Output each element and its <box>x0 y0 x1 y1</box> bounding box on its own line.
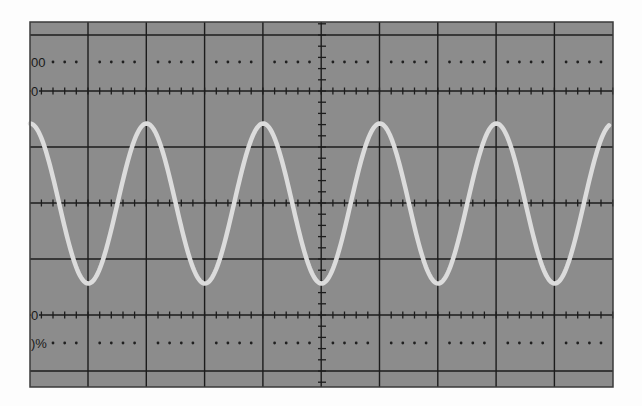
graticule-dot <box>285 342 288 345</box>
graticule-dot <box>355 61 358 64</box>
graticule-dot <box>366 342 369 345</box>
graticule-dot <box>168 342 171 345</box>
graticule-dot <box>122 61 125 64</box>
graticule-dot <box>343 342 346 345</box>
graticule-dot <box>460 61 463 64</box>
scale-label-100-percent-marker: 00 <box>31 55 45 70</box>
graticule-dot <box>192 342 195 345</box>
scale-label-top-reference-marker: 0 <box>31 84 38 99</box>
graticule-dot <box>366 61 369 64</box>
graticule-dot <box>588 342 591 345</box>
graticule-dot <box>401 61 404 64</box>
graticule-dot <box>215 342 218 345</box>
scale-label-percent-marker: )% <box>31 336 47 351</box>
graticule-dot <box>297 342 300 345</box>
graticule-dot <box>52 342 55 345</box>
graticule-dot <box>343 61 346 64</box>
graticule-dot <box>483 61 486 64</box>
graticule-dot <box>355 342 358 345</box>
graticule-dot <box>413 342 416 345</box>
graticule-dot <box>308 342 311 345</box>
graticule-dot <box>192 61 195 64</box>
graticule-dot <box>110 342 113 345</box>
graticule-dot <box>98 61 101 64</box>
graticule-dot <box>75 342 78 345</box>
graticule-dot <box>63 61 66 64</box>
graticule-dot <box>180 61 183 64</box>
graticule-dot <box>227 61 230 64</box>
graticule-dot <box>448 61 451 64</box>
graticule-dot <box>332 342 335 345</box>
graticule-dot <box>52 61 55 64</box>
graticule-dot <box>157 342 160 345</box>
graticule-dot <box>63 342 66 345</box>
graticule-dot <box>250 342 253 345</box>
graticule-dot <box>530 61 533 64</box>
graticule-dot <box>471 61 474 64</box>
graticule-dot <box>133 342 136 345</box>
graticule-dot <box>413 61 416 64</box>
graticule-dot <box>425 61 428 64</box>
graticule-dot <box>390 342 393 345</box>
graticule-dot <box>506 342 509 345</box>
graticule-dot <box>238 342 241 345</box>
graticule-dot <box>460 342 463 345</box>
graticule-dot <box>133 61 136 64</box>
graticule-dot <box>238 61 241 64</box>
graticule-dot <box>110 61 113 64</box>
graticule-dot <box>227 342 230 345</box>
graticule-dot <box>483 342 486 345</box>
graticule-dot <box>215 61 218 64</box>
graticule-dot <box>518 61 521 64</box>
graticule-dot <box>588 61 591 64</box>
graticule-dot <box>180 342 183 345</box>
graticule-dot <box>390 61 393 64</box>
graticule-dot <box>250 61 253 64</box>
scale-label-bottom-reference-marker: 0 <box>31 308 38 323</box>
graticule-dot <box>297 61 300 64</box>
graticule-dot <box>168 61 171 64</box>
graticule-dot <box>98 342 101 345</box>
graticule-dot <box>157 61 160 64</box>
graticule-dot <box>565 61 568 64</box>
graticule-dot <box>565 342 568 345</box>
graticule-dot <box>273 342 276 345</box>
graticule-dot <box>308 61 311 64</box>
graticule-dot <box>401 342 404 345</box>
graticule-dot <box>600 61 603 64</box>
graticule-dot <box>576 61 579 64</box>
graticule-dot <box>75 61 78 64</box>
graticule-dot <box>332 61 335 64</box>
graticule-dot <box>448 342 451 345</box>
graticule-dot <box>122 342 125 345</box>
oscilloscope-display: 0000)% <box>0 0 642 406</box>
graticule-dot <box>576 342 579 345</box>
graticule-dot <box>541 61 544 64</box>
graticule-dot <box>273 61 276 64</box>
graticule-dot <box>425 342 428 345</box>
graticule-dot <box>471 342 474 345</box>
graticule-dot <box>518 342 521 345</box>
graticule-dot <box>285 61 288 64</box>
graticule-dot <box>530 342 533 345</box>
graticule-dot <box>506 61 509 64</box>
graticule-dot <box>600 342 603 345</box>
graticule-dot <box>541 342 544 345</box>
